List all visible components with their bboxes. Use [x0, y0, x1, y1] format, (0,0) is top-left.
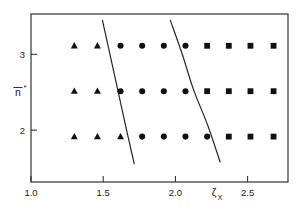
data-point-triangle [117, 133, 124, 139]
data-point-square [226, 134, 232, 140]
data-point-square [271, 88, 277, 94]
y-axis-title-superscript: * [24, 83, 27, 92]
data-point-square [271, 43, 277, 49]
data-point-circle [117, 88, 123, 94]
data-point-triangle [71, 133, 78, 139]
data-markers-layer [71, 42, 277, 140]
data-point-circle [182, 134, 188, 140]
data-point-square [248, 134, 254, 140]
data-point-circle [117, 43, 123, 49]
data-point-circle [161, 134, 167, 140]
data-point-circle [161, 43, 167, 49]
x-axis-title: ζ X [212, 186, 223, 202]
y-axis-ticks [31, 54, 37, 130]
series-triangle [71, 42, 124, 139]
right-phase-boundary [170, 20, 220, 162]
y-axis-title: n * [14, 83, 27, 98]
x-axis-title-subscript: X [217, 193, 222, 202]
x-axis-ticks [31, 176, 248, 182]
x-tick-label-3: 2.0 [169, 187, 182, 198]
data-point-circle [139, 88, 145, 94]
data-point-triangle [94, 133, 101, 139]
data-point-circle [182, 43, 188, 49]
data-point-square [248, 43, 254, 49]
phase-diagram-plot: 1.0 1.5 2.0 2.5 2 3 ζ X n * [0, 0, 300, 215]
data-point-square [271, 134, 277, 140]
series-circle [117, 43, 210, 140]
figure-container: 1.0 1.5 2.0 2.5 2 3 ζ X n * [0, 0, 300, 215]
data-point-triangle [71, 42, 78, 48]
data-point-square [226, 43, 232, 49]
data-point-circle [204, 134, 210, 140]
data-point-square [204, 88, 210, 94]
data-point-square [204, 43, 210, 49]
data-point-circle [161, 88, 167, 94]
y-tick-label-3: 3 [20, 49, 25, 60]
data-point-circle [139, 134, 145, 140]
x-axis-title-symbol: ζ [212, 186, 217, 198]
x-tick-label-2: 1.5 [97, 187, 110, 198]
x-tick-label-4: 2.5 [241, 187, 254, 198]
y-tick-label-2: 2 [20, 125, 25, 136]
data-point-triangle [94, 42, 101, 48]
data-point-triangle [71, 87, 78, 93]
data-point-triangle [94, 87, 101, 93]
plot-frame [31, 14, 288, 182]
data-point-circle [139, 43, 145, 49]
x-tick-label-1: 1.0 [24, 187, 37, 198]
data-point-circle [182, 88, 188, 94]
data-point-square [226, 88, 232, 94]
series-square [204, 43, 276, 140]
data-point-square [248, 88, 254, 94]
